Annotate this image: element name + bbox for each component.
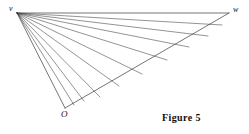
vertex-label-w: w xyxy=(233,6,238,14)
ray-fan xyxy=(17,13,222,105)
triangle-edges xyxy=(17,13,229,108)
ray-2 xyxy=(17,13,208,36)
geometry-diagram xyxy=(0,0,249,134)
ray-8 xyxy=(17,13,84,101)
ray-4 xyxy=(17,13,167,60)
ray-7 xyxy=(17,13,100,97)
vertex-label-O: O xyxy=(61,110,68,119)
edge-v-O xyxy=(17,13,65,108)
figure-caption: Figure 5 xyxy=(162,112,201,123)
ray-6 xyxy=(17,13,119,86)
figure-container: v w O Figure 5 xyxy=(0,0,249,134)
vertex-label-v: v xyxy=(9,5,13,13)
